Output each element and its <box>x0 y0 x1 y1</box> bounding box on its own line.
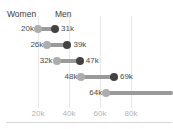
chart-row: 20k31k <box>0 22 173 36</box>
women-data-point[interactable] <box>34 25 42 33</box>
men-value-label: 31k <box>61 23 74 34</box>
x-axis-tick-label: 60k <box>94 108 107 119</box>
women-value-label: 32k <box>27 55 53 66</box>
women-value-label: 48k <box>51 71 77 82</box>
range-connector <box>106 91 173 95</box>
x-axis: 20k40k60k80k <box>0 108 173 122</box>
men-value-label: 39k <box>73 39 86 50</box>
x-axis-tick-label: 20k <box>32 108 45 119</box>
dumbbell-chart: Women Men 20k31k26k39k32k47k48k69k64k 20… <box>0 0 173 129</box>
women-data-point[interactable] <box>102 89 110 97</box>
chart-row: 26k39k <box>0 38 173 52</box>
chart-row: 32k47k <box>0 54 173 68</box>
x-axis-tick-label: 40k <box>63 108 76 119</box>
women-data-point[interactable] <box>77 73 85 81</box>
x-axis-tick-label: 80k <box>125 108 138 119</box>
women-data-point[interactable] <box>43 41 51 49</box>
women-value-label: 20k <box>8 23 34 34</box>
women-data-point[interactable] <box>53 57 61 65</box>
men-data-point[interactable] <box>76 57 84 65</box>
women-value-label: 26k <box>17 39 43 50</box>
women-value-label: 64k <box>76 87 102 98</box>
men-data-point[interactable] <box>51 25 59 33</box>
men-data-point[interactable] <box>110 73 118 81</box>
men-value-label: 47k <box>86 55 99 66</box>
chart-row: 48k69k <box>0 70 173 84</box>
axis-baseline <box>6 122 172 123</box>
men-data-point[interactable] <box>63 41 71 49</box>
men-value-label: 69k <box>120 71 133 82</box>
chart-plot-area: 20k31k26k39k32k47k48k69k64k <box>0 0 173 114</box>
chart-row: 64k <box>0 86 173 100</box>
